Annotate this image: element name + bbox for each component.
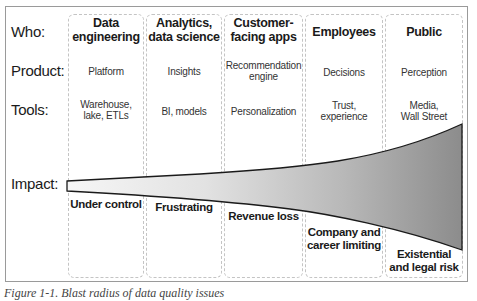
who-analytics: Analytics, data science xyxy=(146,16,222,44)
product-analytics: Insights xyxy=(146,66,222,77)
product-employees: Decisions xyxy=(305,67,383,78)
row-label-who: Who: xyxy=(11,23,45,40)
who-data-engineering: Data engineering xyxy=(68,16,144,44)
impact-data-engineering: Under control xyxy=(68,198,144,211)
figure-caption: Figure 1-1. Blast radius of data quality… xyxy=(4,286,224,301)
who-customer-facing-apps: Customer- facing apps xyxy=(224,16,303,44)
product-public: Perception xyxy=(385,67,463,78)
who-public: Public xyxy=(385,25,463,39)
tools-data-engineering: Warehouse, lake, ETLs xyxy=(68,99,144,121)
impact-public: Existential and legal risk xyxy=(385,248,463,274)
product-customer-facing-apps: Recommendation engine xyxy=(222,60,305,82)
impact-analytics: Frustrating xyxy=(146,201,222,214)
tools-public: Media, Wall Street xyxy=(385,100,463,122)
impact-employees: Company and career limiting xyxy=(305,226,383,252)
row-label-impact: Impact: xyxy=(11,175,58,192)
tools-employees: Trust, experience xyxy=(305,100,383,122)
tools-analytics: BI, models xyxy=(146,106,222,117)
product-data-engineering: Platform xyxy=(68,66,144,77)
tools-customer-facing-apps: Personalization xyxy=(222,106,305,117)
impact-customer-facing-apps: Revenue loss xyxy=(224,210,303,223)
row-label-product: Product: xyxy=(11,62,64,79)
row-label-tools: Tools: xyxy=(11,101,48,118)
who-employees: Employees xyxy=(305,25,383,39)
